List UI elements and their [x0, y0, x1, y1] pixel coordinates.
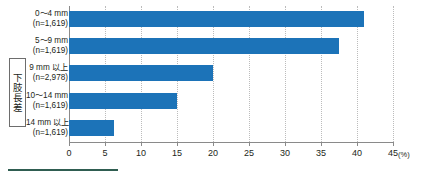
category-axis-labels: 0〜4 mm(n=1,619)5〜9 mm(n=1,619)9 mm 以上(n=… — [26, 6, 68, 142]
tick-label-30: 30 — [280, 148, 290, 158]
tick-label-20: 20 — [208, 148, 218, 158]
category-label: 10〜14 mm(n=1,619) — [26, 91, 68, 111]
tick-label-0: 0 — [66, 148, 71, 158]
tick-mark-10 — [141, 142, 142, 146]
category-label: 5〜9 mm(n=1,619) — [26, 36, 68, 56]
category-label: 14 mm 以上(n=1,619) — [26, 118, 68, 138]
tick-label-25: 25 — [244, 148, 254, 158]
tick-mark-15 — [177, 142, 178, 146]
category-label: 0〜4 mm(n=1,619) — [26, 9, 68, 29]
group-label-box: 下肢長差 — [9, 58, 26, 127]
category-label-name: 14 mm 以上 — [26, 118, 68, 128]
plot-area — [69, 6, 393, 142]
tick-mark-5 — [105, 142, 106, 146]
category-label-name: 5〜9 mm — [26, 36, 68, 46]
category-label-name: 9 mm 以上 — [26, 63, 68, 73]
footer-rule — [8, 169, 118, 171]
category-label-count: (n=1,619) — [26, 46, 68, 56]
gridline-45 — [393, 6, 395, 142]
category-label: 9 mm 以上(n=2,978) — [26, 63, 68, 83]
bar — [69, 38, 339, 54]
category-label-count: (n=1,619) — [26, 19, 68, 29]
bar — [69, 65, 213, 81]
tick-mark-20 — [213, 142, 214, 146]
tick-mark-0 — [69, 142, 70, 146]
x-axis-line — [69, 142, 393, 143]
tick-label-5: 5 — [102, 148, 107, 158]
tick-mark-35 — [321, 142, 322, 146]
tick-mark-25 — [249, 142, 250, 146]
bar-chart: 下肢長差 0〜4 mm(n=1,619)5〜9 mm(n=1,619)9 mm … — [0, 0, 421, 176]
tick-label-45: 45 — [388, 148, 398, 158]
category-label-name: 10〜14 mm — [26, 91, 68, 101]
category-label-count: (n=2,978) — [26, 73, 68, 83]
group-label-text: 下肢長差 — [12, 73, 23, 113]
category-label-count: (n=1,619) — [26, 101, 68, 111]
category-label-name: 0〜4 mm — [26, 9, 68, 19]
tick-mark-45 — [393, 142, 394, 146]
tick-mark-40 — [357, 142, 358, 146]
category-label-count: (n=1,619) — [26, 128, 68, 138]
tick-label-15: 15 — [172, 148, 182, 158]
x-axis-unit-label: (%) — [398, 150, 410, 159]
bar — [69, 120, 114, 136]
bar — [69, 93, 177, 109]
tick-mark-30 — [285, 142, 286, 146]
tick-label-10: 10 — [136, 148, 146, 158]
tick-label-40: 40 — [352, 148, 362, 158]
tick-label-35: 35 — [316, 148, 326, 158]
bar — [69, 11, 364, 27]
